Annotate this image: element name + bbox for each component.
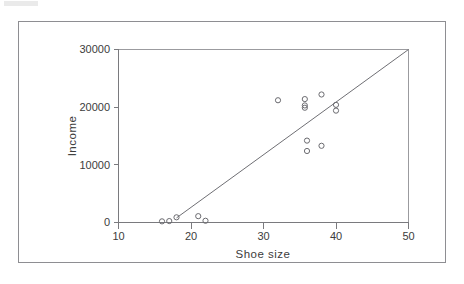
x-tick-label-30: 30 bbox=[257, 230, 269, 242]
data-point bbox=[302, 96, 307, 101]
data-point bbox=[304, 148, 309, 153]
x-tick-label-50: 50 bbox=[402, 230, 414, 242]
y-axis-title: Income bbox=[66, 116, 78, 157]
data-point bbox=[333, 102, 338, 107]
y-tick-label-30000: 30000 bbox=[79, 43, 110, 55]
data-point bbox=[159, 219, 164, 224]
y-tick-label-0: 0 bbox=[104, 216, 110, 228]
data-point bbox=[319, 92, 324, 97]
data-point bbox=[275, 98, 280, 103]
data-point-group bbox=[159, 92, 338, 224]
y-axis-ticks bbox=[114, 50, 119, 223]
data-point bbox=[319, 143, 324, 148]
data-point bbox=[304, 138, 309, 143]
plot-frame-top-right bbox=[119, 50, 409, 223]
y-tick-label-20000: 20000 bbox=[79, 101, 110, 113]
x-axis-ticks bbox=[119, 223, 409, 229]
x-axis-title: Shoe size bbox=[235, 248, 290, 260]
y-tick-label-10000: 10000 bbox=[79, 159, 110, 171]
data-point bbox=[196, 214, 201, 219]
x-tick-label-10: 10 bbox=[112, 230, 124, 242]
scatter-plot: 30000 20000 10000 0 10 20 30 40 50 Shoe … bbox=[0, 0, 464, 284]
regression-line bbox=[177, 50, 409, 218]
x-tick-label-20: 20 bbox=[185, 230, 197, 242]
x-tick-label-40: 40 bbox=[330, 230, 342, 242]
data-point bbox=[333, 108, 338, 113]
